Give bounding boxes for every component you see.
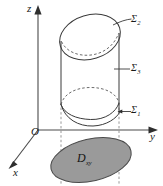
sigma1-label: Σ1 [131,105,140,115]
sigma3-lateral-surface [61,33,119,113]
sigma1-leader-arrowhead [118,110,123,114]
bottom-bowl-surface [61,105,120,127]
y-axis-label: y [150,131,155,142]
bottom-rim-hidden-back [61,88,119,105]
projection-disk-label-text: D [77,151,86,165]
figure-canvas: z y x O Σ2 Σ3 Σ1 Dxy [0,0,163,186]
top-cap-hidden-rim [62,34,119,56]
projection-disk-label-subscript: xy [86,159,92,166]
x-axis-label: x [13,167,18,178]
origin-label: O [31,126,39,137]
sigma2-top-cap [54,7,126,67]
sigma3-label: Σ3 [131,63,140,73]
sigma3-label-subscript: 3 [137,68,140,75]
sigma1-bottom-cap [61,88,120,127]
leader-lines [113,19,132,113]
z-axis-arrowhead [34,5,41,15]
sigma2-label-subscript: 2 [137,19,140,26]
sigma1-label-subscript: 1 [137,110,140,117]
projection-disk-label: Dxy [77,152,91,164]
bottom-rim-front [61,103,119,120]
top-cap-outline [54,7,126,67]
sigma2-label: Σ2 [131,14,140,24]
z-axis-label: z [27,3,31,14]
